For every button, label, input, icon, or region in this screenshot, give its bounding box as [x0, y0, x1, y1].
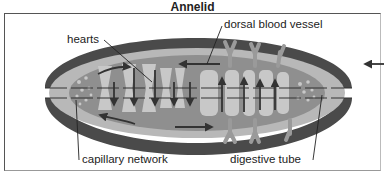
label-digestive-tube: digestive tube — [230, 153, 301, 166]
label-hearts: hearts — [67, 33, 99, 46]
annelid-diagram — [0, 0, 385, 177]
label-capillary-network: capillary network — [82, 153, 168, 166]
label-dorsal-blood-vessel: dorsal blood vessel — [224, 18, 322, 31]
